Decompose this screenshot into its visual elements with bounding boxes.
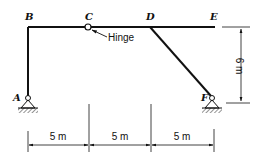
height-dimension-label: 6 m: [234, 58, 245, 75]
node-label-c: C: [85, 11, 93, 22]
frame-diagram: Hinge B C D E A F 6 m 5 m 5 m 5 m: [0, 0, 262, 162]
node-label-d: D: [145, 11, 155, 22]
hinge-label: Hinge: [108, 32, 135, 43]
span-1-label: 5 m: [50, 131, 67, 142]
span-2-label: 5 m: [112, 131, 129, 142]
span-3-label: 5 m: [174, 131, 191, 142]
member-df: [150, 27, 211, 96]
hinge-c-icon: [85, 24, 91, 30]
node-label-b: B: [24, 11, 33, 22]
node-label-f: F: [200, 92, 209, 103]
node-label-e: E: [209, 11, 218, 22]
node-label-a: A: [12, 92, 21, 103]
hinge-leader: [92, 30, 107, 37]
pin-support-a-icon: [18, 96, 38, 114]
span-dimensions: [28, 104, 214, 152]
